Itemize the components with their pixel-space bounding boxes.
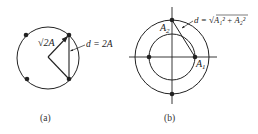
constellation-point [25, 77, 30, 82]
caption-b: (b) [164, 113, 175, 124]
diagram-canvas: √2A d = 2A (a) A2 A1 d = √A₁² + A₂² (b) [0, 0, 258, 134]
radius-label: √2A [38, 37, 55, 48]
label-a1: A1 [195, 58, 206, 71]
constellation-point [24, 33, 29, 38]
distance-label: d = √A₁² + A₂² [194, 15, 246, 25]
label-a2: A2 [159, 22, 170, 35]
figure-a: √2A d = 2A (a) [17, 27, 113, 124]
figure-b: A2 A1 d = √A₁² + A₂² (b) [129, 7, 248, 124]
caption-a: (a) [40, 113, 51, 124]
chord-label: d = 2A [86, 39, 113, 49]
point-bottom [170, 92, 175, 97]
point-left [147, 55, 152, 60]
radius-vector-line [48, 57, 69, 79]
